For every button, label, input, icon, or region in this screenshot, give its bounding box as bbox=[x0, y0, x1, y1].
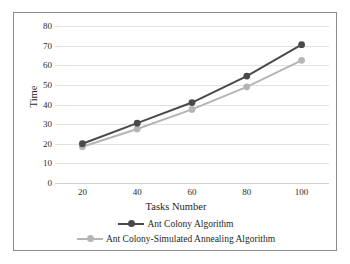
data-point-marker bbox=[189, 106, 196, 113]
y-axis-tick-labels: 01020304050607080 bbox=[22, 26, 52, 183]
plot-area bbox=[55, 26, 329, 183]
data-point-marker bbox=[189, 99, 196, 106]
y-axis-tick-label: 60 bbox=[18, 61, 52, 70]
x-axis-tick-label: 20 bbox=[62, 187, 102, 197]
y-axis-tick-label: 80 bbox=[18, 22, 52, 31]
y-axis-tick-label: 70 bbox=[18, 41, 52, 50]
chart-legend: Ant Colony AlgorithmAnt Colony-Simulated… bbox=[14, 216, 338, 246]
y-axis-tick-label: 20 bbox=[18, 139, 52, 148]
legend-item-label: Ant Colony Algorithm bbox=[147, 219, 233, 229]
y-axis-tick-label: 0 bbox=[18, 179, 52, 188]
data-point-marker bbox=[298, 41, 305, 48]
x-axis-tick-label: 80 bbox=[227, 187, 267, 197]
y-axis-tick-label: 30 bbox=[18, 120, 52, 129]
legend-item[interactable]: Ant Colony-Simulated Annealing Algorithm bbox=[14, 231, 338, 246]
chart-figure: Time 01020304050607080 20406080100 Tasks… bbox=[13, 12, 337, 251]
gridline bbox=[55, 183, 329, 184]
data-point-marker bbox=[298, 57, 305, 64]
legend-item-label: Ant Colony-Simulated Annealing Algorithm bbox=[106, 234, 275, 244]
x-axis-title: Tasks Number bbox=[14, 201, 338, 212]
x-axis-tick-labels: 20406080100 bbox=[55, 187, 329, 201]
legend-swatch-icon bbox=[118, 218, 144, 229]
data-point-marker bbox=[79, 140, 86, 147]
x-axis-tick-label: 40 bbox=[117, 187, 157, 197]
x-axis-tick-label: 60 bbox=[172, 187, 212, 197]
legend-swatch-icon bbox=[77, 233, 103, 244]
legend-item[interactable]: Ant Colony Algorithm bbox=[14, 216, 338, 231]
data-point-marker bbox=[134, 126, 141, 133]
data-point-marker bbox=[243, 73, 250, 80]
y-axis-tick-label: 10 bbox=[18, 159, 52, 168]
y-axis-tick-label: 40 bbox=[18, 100, 52, 109]
y-axis-tick-label: 50 bbox=[18, 80, 52, 89]
series-line bbox=[82, 45, 301, 144]
data-point-marker bbox=[243, 83, 250, 90]
data-point-marker bbox=[134, 120, 141, 127]
series-layer bbox=[55, 26, 329, 183]
x-axis-tick-label: 100 bbox=[282, 187, 322, 197]
